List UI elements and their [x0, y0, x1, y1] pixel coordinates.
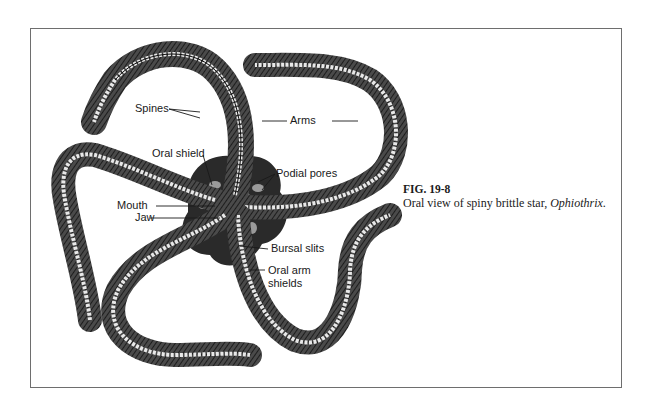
- label-podial-pores: Podial pores: [276, 167, 337, 180]
- figure-number: FIG. 19-8: [403, 182, 606, 196]
- label-oral-arm-shields-line1: Oral arm: [268, 264, 311, 277]
- label-oral-arm-shields: Oral arm shields: [268, 264, 311, 290]
- label-bursal-slits: Bursal slits: [271, 242, 324, 255]
- label-oral-shield: Oral shield: [152, 147, 205, 160]
- figure-caption: FIG. 19-8 Oral view of spiny brittle sta…: [403, 182, 606, 210]
- caption-prefix: Oral view of spiny brittle star,: [403, 196, 550, 210]
- caption-genus: Ophiothrix: [550, 196, 603, 210]
- label-oral-arm-shields-line2: shields: [268, 277, 311, 290]
- caption-suffix: .: [603, 196, 606, 210]
- label-jaw: Jaw: [135, 211, 155, 224]
- label-spines: Spines: [135, 102, 169, 115]
- caption-text: Oral view of spiny brittle star, Ophioth…: [403, 196, 606, 210]
- label-arms: Arms: [290, 114, 316, 127]
